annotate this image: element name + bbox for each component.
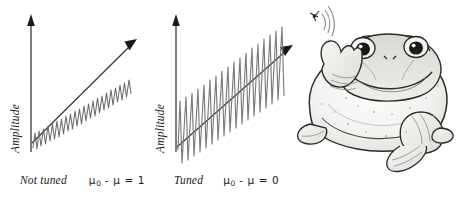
y-axis-label-not-tuned: Amplitude	[9, 104, 21, 153]
figure-container: Amplitude Not tuned μ0 - μ = 1	[0, 0, 458, 198]
y-axis-label-tuned: Amplitude	[154, 104, 166, 153]
not-tuned-plot	[0, 0, 150, 160]
toad-illustration-panel	[288, 0, 458, 198]
toad-sketch	[288, 0, 458, 198]
toad-eye-right	[404, 37, 428, 58]
chart-panel-tuned: Amplitude Tuned μ0 - μ = 0	[148, 0, 293, 198]
toad-hind-foot-right	[432, 128, 453, 143]
oscillation-waveform	[178, 27, 284, 163]
equation-remainder: - μ = 1	[101, 174, 145, 186]
oscillation-waveform	[33, 80, 131, 149]
tuned-plot	[148, 0, 293, 165]
equation-remainder: - μ = 0	[235, 174, 279, 186]
fly-icon	[310, 11, 319, 21]
toad-front-left-hand	[321, 41, 362, 90]
caption-equation-tuned: μ0 - μ = 0	[223, 174, 279, 188]
caption-not-tuned: Not tuned μ0 - μ = 1	[20, 174, 145, 188]
toad-hind-foot-left	[298, 124, 327, 144]
sound-wave-arcs	[322, 6, 334, 36]
caption-equation-not-tuned: μ0 - μ = 1	[89, 174, 145, 188]
caption-label-not-tuned: Not tuned	[20, 174, 67, 186]
chart-panel-not-tuned: Amplitude Not tuned μ0 - μ = 1	[0, 0, 150, 198]
y-axis	[27, 14, 35, 152]
caption-tuned: Tuned μ0 - μ = 0	[174, 174, 279, 188]
caption-label-tuned: Tuned	[174, 174, 203, 186]
